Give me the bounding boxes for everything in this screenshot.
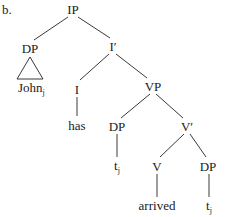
node-dp-subject: DP: [22, 41, 39, 56]
edge-ip-ibar: [78, 17, 110, 38]
node-john: Johnj: [18, 80, 45, 97]
edge-vbar-dp: [190, 134, 206, 157]
edge-ibar-i: [80, 54, 109, 80]
node-v-bar: V′: [181, 119, 193, 134]
node-ip: IP: [67, 2, 79, 17]
syntax-tree: b. IP DP Johnj I′ I has VP DP V′ tj V DP…: [0, 0, 226, 217]
node-trace-spec: tj: [114, 158, 120, 175]
node-has: has: [68, 118, 85, 133]
edge-vp-dp: [121, 94, 150, 118]
node-i-head: I: [75, 82, 79, 97]
node-vp: VP: [145, 79, 162, 94]
node-trace-object: tj: [206, 198, 212, 215]
node-dp-object: DP: [200, 159, 217, 174]
example-label: b.: [2, 2, 12, 17]
edge-ibar-vp: [116, 54, 147, 78]
edge-vbar-v: [160, 134, 184, 157]
edge-ip-dp: [34, 17, 68, 40]
node-arrived: arrived: [139, 198, 176, 213]
node-dp-spec-vp: DP: [109, 119, 126, 134]
node-i-bar: I′: [109, 39, 116, 54]
node-v-head: V: [152, 159, 162, 174]
edge-vp-vbar: [156, 94, 183, 118]
triangle-dp: [17, 57, 43, 79]
